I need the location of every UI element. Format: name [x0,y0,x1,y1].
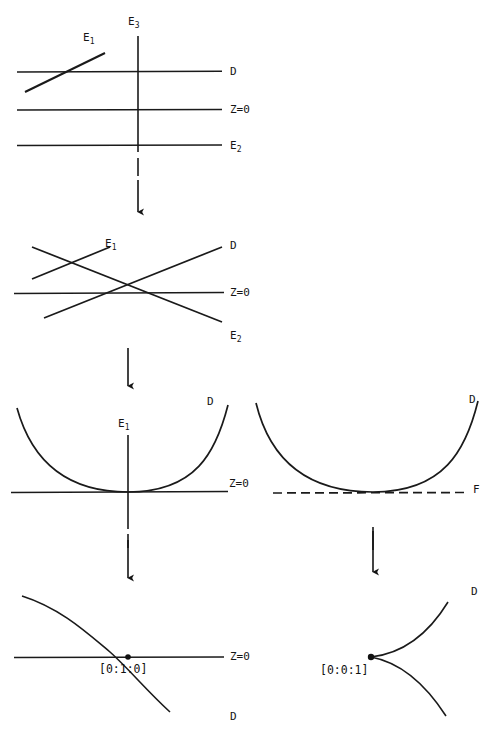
curve-d-p4l [22,596,170,712]
label-d-panel3-left: D [207,396,214,407]
label-e1-panel1: E1 [83,32,94,46]
label-e1-panel3-left: E1 [118,418,129,432]
panel-4-right-curves [368,602,448,716]
line-d-p1 [17,71,222,72]
label-z0-panel2: Z=0 [230,287,250,298]
panel-2-lines [14,247,224,322]
point-marker-p4r [368,654,374,660]
label-d-panel4-left: D [230,711,237,722]
label-e1-panel2: E1 [105,238,116,252]
label-z0-panel1: Z=0 [230,104,250,115]
line-d-p2 [44,247,222,318]
figure-root: E3 E1 D Z=0 E2 E1 D Z=0 E2 D E1 Z=0 D F … [0,0,504,736]
point-marker-p4l [125,654,131,660]
label-d-panel4-right: D [471,586,478,597]
line-e2-p1 [17,145,222,146]
cusp-upper-p4r [371,602,448,657]
panel-4-left-curves [14,596,224,712]
line-z0-p3l [11,492,228,493]
label-point-panel4-right: [0:0:1] [320,664,368,676]
label-e3-panel1: E3 [128,16,139,30]
parabola-d-p3r [256,401,478,492]
label-point-panel4-left: [0:1:0] [99,663,147,675]
line-z0-p4l [14,657,224,658]
label-e2-panel1: E2 [230,140,241,154]
label-d-panel3-right: D [469,394,476,405]
label-z0-panel3-left: Z=0 [229,478,249,489]
line-z0-p2 [14,293,224,294]
label-d-panel1: D [230,66,237,77]
label-z0-panel4-left: Z=0 [230,651,250,662]
panel-3-right-curves [256,401,478,550]
figure-drawing [0,0,504,736]
label-d-panel2: D [230,240,237,251]
line-z0-p1 [17,109,222,110]
panel-1-lines [17,36,222,176]
cusp-lower-p4r [371,657,446,716]
label-f-panel3-right: F [473,484,480,495]
label-e2-panel2: E2 [230,330,241,344]
